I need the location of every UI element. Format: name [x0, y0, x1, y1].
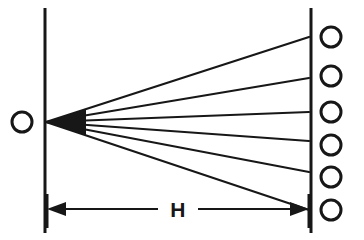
diagram-canvas: H: [0, 0, 364, 240]
ray-fan-diagram: H: [0, 0, 364, 240]
dimension-h-label: H: [170, 198, 186, 221]
